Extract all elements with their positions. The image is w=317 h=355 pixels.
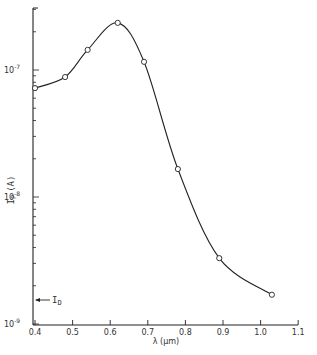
ticks	[33, 9, 298, 325]
x-tick-label: 0.4	[29, 328, 42, 337]
data-point	[175, 166, 180, 171]
x-tick-label: 0.8	[179, 328, 192, 337]
data-points	[32, 20, 274, 297]
x-tick-labels: 0.40.50.60.70.80.91.01.1	[29, 328, 305, 337]
y-tick-label: 10-9	[4, 317, 20, 329]
data-point	[217, 256, 222, 261]
axes	[33, 8, 298, 325]
data-curve	[35, 23, 272, 295]
data-point	[269, 292, 274, 297]
x-axis-label: λ (μm)	[153, 337, 179, 346]
x-tick-label: 0.9	[217, 328, 230, 337]
svg-text:ID: ID	[52, 295, 62, 307]
arrow-icon	[35, 298, 40, 302]
x-tick-label: 0.5	[66, 328, 79, 337]
x-tick-label: 1.0	[254, 328, 267, 337]
data-point	[141, 59, 146, 64]
data-point	[115, 20, 120, 25]
chart: 0.40.50.60.70.80.91.01.1 10-710-810-9 λ …	[0, 0, 317, 355]
data-point	[85, 47, 90, 52]
x-tick-label: 0.6	[104, 328, 117, 337]
y-tick-label: 10-7	[4, 63, 20, 75]
id-annotation: ID	[35, 295, 62, 307]
data-point	[62, 74, 67, 79]
x-tick-label: 1.1	[292, 328, 305, 337]
data-point	[32, 86, 37, 91]
x-tick-label: 0.7	[141, 328, 154, 337]
